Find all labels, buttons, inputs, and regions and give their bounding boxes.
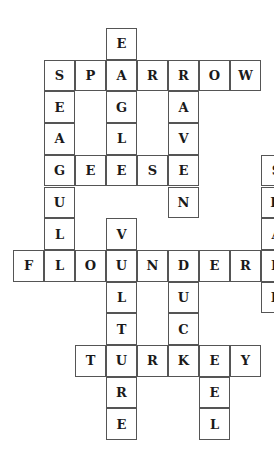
crossword-cell[interactable]: L	[106, 123, 137, 155]
crossword-cell[interactable]: S	[137, 155, 168, 187]
crossword-cell[interactable]: U	[106, 250, 137, 282]
crossword-cell[interactable]: E	[44, 91, 75, 123]
crossword-cell[interactable]: R	[168, 60, 199, 92]
crossword-cell[interactable]: H	[261, 187, 274, 219]
crossword-cell[interactable]: L	[106, 282, 137, 314]
crossword-cell[interactable]: R	[137, 60, 168, 92]
crossword-cell[interactable]: R	[106, 377, 137, 409]
crossword-cell[interactable]: A	[44, 123, 75, 155]
crossword-cell[interactable]: A	[106, 60, 137, 92]
crossword-cell[interactable]: U	[106, 345, 137, 377]
crossword-cell[interactable]: T	[106, 313, 137, 345]
crossword-cell[interactable]: G	[44, 155, 75, 187]
crossword-cell[interactable]: K	[168, 345, 199, 377]
crossword-cell[interactable]: U	[168, 282, 199, 314]
crossword-cell[interactable]: V	[168, 123, 199, 155]
crossword-cell[interactable]: E	[199, 345, 230, 377]
crossword-cell[interactable]: D	[168, 250, 199, 282]
crossword-cell[interactable]: S	[44, 60, 75, 92]
crossword-cell[interactable]: L	[44, 218, 75, 250]
crossword-cell[interactable]: R	[230, 250, 261, 282]
crossword-cell[interactable]: N	[137, 250, 168, 282]
crossword-cell[interactable]: F	[13, 250, 44, 282]
crossword-cell[interactable]: P	[75, 60, 106, 92]
crossword-cell[interactable]: T	[75, 345, 106, 377]
crossword-cell[interactable]: L	[199, 408, 230, 440]
crossword-cell[interactable]: E	[168, 155, 199, 187]
crossword-cell[interactable]: O	[199, 60, 230, 92]
crossword-cell[interactable]: Y	[230, 345, 261, 377]
crossword-cell[interactable]: R	[137, 345, 168, 377]
crossword-cell[interactable]: E	[106, 408, 137, 440]
crossword-cell[interactable]: E	[75, 155, 106, 187]
crossword-cell[interactable]: L	[44, 250, 75, 282]
crossword-cell[interactable]: A	[168, 91, 199, 123]
crossword-cell[interactable]: E	[106, 28, 137, 60]
crossword-cell[interactable]: U	[44, 187, 75, 219]
crossword-cell[interactable]: N	[168, 187, 199, 219]
crossword-cell[interactable]: E	[106, 155, 137, 187]
crossword-cell[interactable]: A	[261, 218, 274, 250]
crossword-cell[interactable]: E	[199, 377, 230, 409]
crossword-cell[interactable]: V	[106, 218, 137, 250]
crossword-cell[interactable]: W	[230, 60, 261, 92]
crossword-cell[interactable]: E	[199, 250, 230, 282]
crossword-cell[interactable]: C	[168, 313, 199, 345]
crossword-cell[interactable]: O	[75, 250, 106, 282]
crossword-cell[interactable]: S	[261, 155, 274, 187]
crossword-cell[interactable]: R	[261, 250, 274, 282]
crossword-cell[interactable]: G	[106, 91, 137, 123]
crossword-cell[interactable]: K	[261, 282, 274, 314]
